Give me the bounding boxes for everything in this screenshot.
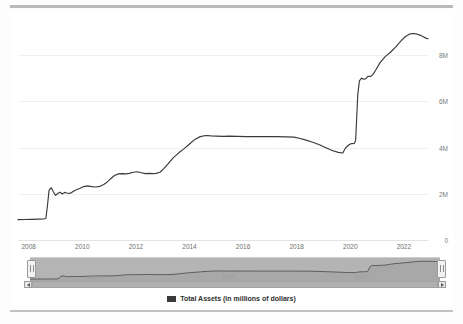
scrollbar-left-arrow-button[interactable] xyxy=(24,281,32,288)
chart-legend[interactable]: Total Assets (in millions of dollars) xyxy=(10,292,453,306)
chevron-left-icon xyxy=(26,283,31,287)
x-tick-2008: 2008 xyxy=(21,243,35,251)
navigator-tick-2010: 2010 xyxy=(87,274,101,280)
x-tick-2022: 2022 xyxy=(397,243,411,251)
gridline-0 xyxy=(18,240,428,241)
y-tick-4M: 4M xyxy=(439,144,448,151)
y-tick-2M: 2M xyxy=(439,190,448,197)
legend-label-total-assets: Total Assets (in millions of dollars) xyxy=(180,295,296,303)
scrollbar-right-arrow-button[interactable] xyxy=(438,281,446,288)
plot-area xyxy=(18,18,428,240)
chart-page: 02M4M6M8M 200820102012201420162018202020… xyxy=(0,0,463,324)
series-total-assets xyxy=(18,18,428,240)
scrollbar-track[interactable] xyxy=(32,281,438,288)
navigator-tick-2015: 2015 xyxy=(221,274,235,280)
legend-swatch-total-assets xyxy=(167,296,176,302)
chart-card: 02M4M6M8M 200820102012201420162018202020… xyxy=(10,11,453,307)
x-tick-2012: 2012 xyxy=(129,243,143,251)
y-tick-6M: 6M xyxy=(439,98,448,105)
y-axis-labels: 02M4M6M8M xyxy=(428,18,452,240)
navigator-left-handle[interactable] xyxy=(27,260,36,278)
x-axis-labels: 20082010201220142016201820202022 xyxy=(18,243,428,255)
navigator-right-handle[interactable] xyxy=(437,260,446,278)
x-tick-2014: 2014 xyxy=(182,243,196,251)
x-tick-2020: 2020 xyxy=(343,243,357,251)
x-tick-2018: 2018 xyxy=(289,243,303,251)
y-tick-8M: 8M xyxy=(439,52,448,59)
navigator-tick-2020: 2020 xyxy=(355,274,369,280)
x-tick-2016: 2016 xyxy=(236,243,250,251)
navigator-scrollbar[interactable] xyxy=(24,281,446,288)
bottom-divider xyxy=(10,310,453,312)
top-divider xyxy=(10,5,453,8)
chevron-right-icon xyxy=(440,283,445,287)
navigator[interactable]: 201020152020 xyxy=(18,257,452,289)
y-tick-0: 0 xyxy=(444,237,448,244)
x-tick-2010: 2010 xyxy=(75,243,89,251)
navigator-band[interactable]: 201020152020 xyxy=(30,257,440,282)
